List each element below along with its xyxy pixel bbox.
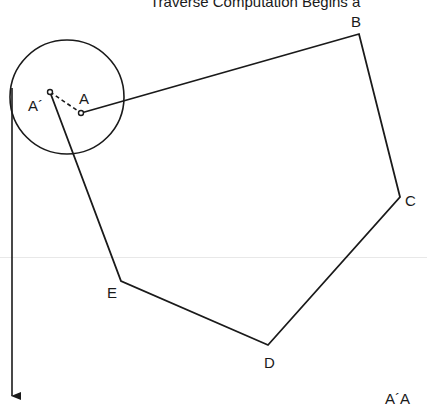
label-b: B <box>351 14 361 29</box>
traverse-lines <box>50 34 400 345</box>
point-a-prime-marker <box>48 90 53 95</box>
label-d: D <box>264 355 275 370</box>
footnote-label: A´A <box>385 391 410 406</box>
label-a: A <box>79 91 89 106</box>
traverse-diagram <box>0 0 427 406</box>
label-c: C <box>405 193 416 208</box>
point-a-marker <box>79 111 84 116</box>
label-a-prime: A´ <box>28 98 43 113</box>
label-e: E <box>107 285 117 300</box>
